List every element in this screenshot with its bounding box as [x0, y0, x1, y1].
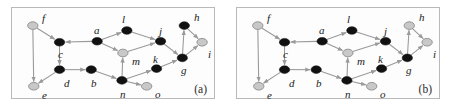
node-label-k: k [378, 54, 383, 65]
graph-edge-a-l [327, 33, 347, 40]
graph-node-g[interactable] [177, 54, 187, 62]
graph-node-j[interactable] [380, 37, 390, 45]
graph-node-g[interactable] [402, 54, 412, 62]
node-group [28, 22, 208, 90]
node-label-n: n [345, 89, 351, 100]
graph-edge-h-i [187, 29, 198, 39]
node-label-h: h [419, 12, 425, 23]
graph-edge-l-j [132, 32, 155, 39]
node-label-g: g [406, 65, 412, 76]
graph-edge-f-e [258, 29, 259, 81]
node-label-m: m [357, 56, 365, 67]
node-label-n: n [120, 89, 126, 100]
graph-edge-g-i [186, 46, 198, 55]
graph-panel-b: fcaljhimgkdbnoe (b) [236, 7, 440, 99]
graph-edge-g-i [411, 46, 423, 55]
graph-node-a[interactable] [92, 37, 102, 45]
graph-edge-f-c [37, 28, 55, 39]
graph-node-c[interactable] [279, 38, 289, 46]
graph-node-h[interactable] [179, 22, 189, 30]
graph-node-l[interactable] [347, 27, 357, 35]
graph-edge-b-n [321, 71, 341, 78]
node-label-f: f [42, 13, 45, 24]
node-label-j: j [159, 26, 162, 37]
node-label-a: a [94, 25, 100, 36]
graph-edge-b-n [96, 71, 116, 78]
node-label-l: l [347, 14, 350, 25]
graph-edge-a-m [102, 43, 118, 50]
node-label-d: d [64, 78, 70, 89]
graph-node-b[interactable] [86, 66, 96, 74]
graph-edge-k-g [161, 60, 177, 67]
graph-node-j[interactable] [155, 37, 165, 45]
node-label-o: o [155, 89, 161, 100]
graph-node-d[interactable] [279, 66, 289, 74]
graph-node-k[interactable] [376, 65, 386, 73]
node-label-b: b [316, 78, 322, 89]
graph-edge-m-j [353, 43, 380, 51]
graph-edge-a-c [66, 41, 92, 42]
graph-edge-a-m [327, 43, 343, 50]
graph-node-m[interactable] [118, 49, 128, 57]
graph-edge-g-h [408, 30, 409, 54]
graph-node-n[interactable] [117, 77, 127, 85]
graph-edge-h-i [412, 29, 423, 39]
node-label-e: e [42, 90, 47, 101]
graph-edge-d-e [263, 72, 280, 83]
graph-edge-f-e [33, 29, 34, 81]
graph-node-o[interactable] [142, 82, 152, 90]
graph-edge-n-o [352, 82, 366, 85]
graph-edge-l-j [357, 32, 380, 39]
graph-edge-n-k [127, 71, 151, 79]
node-label-o: o [380, 89, 386, 100]
node-group [253, 22, 433, 90]
graph-node-f[interactable] [253, 22, 263, 30]
panel-caption-b: (b) [419, 83, 432, 95]
graph-edge-n-k [352, 71, 376, 79]
graph-node-o[interactable] [367, 82, 377, 90]
graph-node-f[interactable] [28, 22, 38, 30]
graph-node-b[interactable] [311, 66, 321, 74]
graph-edge-a-l [102, 33, 122, 40]
graph-edge-k-g [386, 60, 402, 67]
node-label-h: h [194, 12, 200, 23]
panel-caption-a: (a) [194, 83, 207, 95]
graph-edge-d-e [38, 72, 55, 83]
graph-node-c[interactable] [54, 38, 64, 46]
graph-edge-a-c [291, 41, 317, 42]
node-label-e: e [267, 90, 272, 101]
node-label-j: j [384, 26, 387, 37]
graph-node-h[interactable] [404, 22, 414, 30]
graph-node-k[interactable] [151, 65, 161, 73]
node-label-d: d [289, 78, 295, 89]
node-label-m: m [132, 56, 140, 67]
graph-node-e[interactable] [29, 82, 39, 90]
graph-node-e[interactable] [254, 82, 264, 90]
node-label-l: l [122, 14, 125, 25]
node-label-b: b [91, 78, 97, 89]
graph-edge-m-j [128, 43, 155, 51]
graph-edge-n-o [127, 82, 141, 85]
graph-node-i[interactable] [197, 38, 207, 46]
graph-node-a[interactable] [317, 37, 327, 45]
graph-edge-j-g [389, 44, 403, 55]
node-label-k: k [153, 54, 158, 65]
graph-node-i[interactable] [422, 38, 432, 46]
graph-edge-n-m [347, 58, 348, 77]
node-label-c: c [283, 49, 288, 60]
node-label-f: f [267, 13, 270, 24]
graph-edge-j-g [164, 44, 178, 55]
node-label-i: i [433, 49, 436, 60]
graph-panel-a: fcaljhimgkdbnoe (a) [11, 7, 215, 99]
graph-edge-f-c [262, 28, 280, 39]
figure-root: fcaljhimgkdbnoe (a) fcaljhimgkdbnoe (b) [0, 0, 450, 112]
graph-edge-g-h [183, 30, 184, 54]
graph-node-l[interactable] [122, 27, 132, 35]
node-label-i: i [208, 49, 211, 60]
node-label-c: c [58, 49, 63, 60]
graph-node-n[interactable] [342, 77, 352, 85]
graph-edge-n-m [122, 58, 123, 77]
node-label-g: g [181, 65, 187, 76]
graph-node-d[interactable] [54, 66, 64, 74]
graph-node-m[interactable] [343, 49, 353, 57]
